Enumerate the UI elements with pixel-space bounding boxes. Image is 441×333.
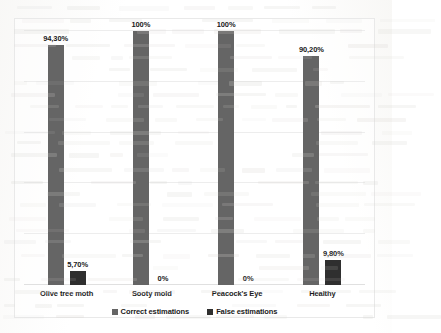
- bleedthrough-text-artifact: [372, 141, 408, 145]
- legend-swatch-icon: [112, 309, 118, 315]
- bleedthrough-text-artifact: [380, 19, 435, 23]
- bar-group: 94,30%5,70%: [24, 31, 109, 285]
- bleedthrough-text-artifact: [17, 6, 53, 10]
- bar-group: 100%0%: [195, 31, 280, 285]
- bar: [325, 260, 341, 285]
- legend-swatch-icon: [207, 309, 213, 315]
- chart-legend: Correct estimationsFalse estimations: [15, 307, 374, 316]
- bleedthrough-text-artifact: [371, 192, 421, 195]
- bar-value-label: 9,80%: [323, 249, 344, 258]
- x-axis-label: Olive tree moth: [24, 289, 109, 298]
- bars-layer: 94,30%5,70%100%0%100%0%90,20%9,80%: [24, 31, 365, 285]
- bleedthrough-text-artifact: [184, 6, 216, 10]
- bar-value-label: 5,70%: [67, 260, 88, 269]
- x-axis-category-labels: Olive tree mothSooty moldPeacock's EyeHe…: [24, 289, 365, 303]
- bar: [303, 56, 319, 285]
- bleedthrough-text-artifact: [264, 6, 300, 9]
- bleedthrough-text-artifact: [228, 6, 253, 10]
- bar-group: 90,20%9,80%: [280, 31, 365, 285]
- legend-item: False estimations: [207, 307, 277, 316]
- legend-label: Correct estimations: [121, 307, 190, 316]
- bleedthrough-text-artifact: [388, 93, 434, 97]
- x-axis-label: Sooty mold: [109, 289, 194, 298]
- chart-frame: 94,30%5,70%100%0%100%0%90,20%9,80% Olive…: [14, 18, 375, 318]
- bleedthrough-text-artifact: [312, 6, 337, 9]
- bleedthrough-text-artifact: [67, 6, 100, 10]
- bar: [133, 31, 149, 285]
- bleedthrough-text-artifact: [387, 315, 441, 319]
- bar-group: 100%0%: [109, 31, 194, 285]
- bar-value-label: 100%: [217, 20, 236, 29]
- bar-value-label: 100%: [131, 20, 150, 29]
- plot-area: 94,30%5,70%100%0%100%0%90,20%9,80%: [24, 31, 365, 285]
- bleedthrough-text-artifact: [378, 240, 410, 244]
- bar: [218, 31, 234, 285]
- bleedthrough-text-artifact: [378, 105, 416, 109]
- bar-value-label: 0%: [243, 274, 254, 283]
- legend-item: Correct estimations: [112, 307, 190, 316]
- bar-value-label: 0%: [158, 274, 169, 283]
- bleedthrough-text-artifact: [382, 131, 412, 135]
- bleedthrough-text-artifact: [377, 254, 413, 257]
- bar-value-label: 90,20%: [299, 45, 324, 54]
- bleedthrough-text-artifact: [119, 6, 169, 11]
- x-axis-label: Peacock's Eye: [195, 289, 280, 298]
- bar: [70, 271, 86, 285]
- bar-value-label: 94,30%: [43, 34, 68, 43]
- legend-label: False estimations: [216, 307, 277, 316]
- bleedthrough-text-artifact: [378, 29, 430, 33]
- x-axis-label: Healthy: [280, 289, 365, 298]
- bar: [48, 45, 64, 285]
